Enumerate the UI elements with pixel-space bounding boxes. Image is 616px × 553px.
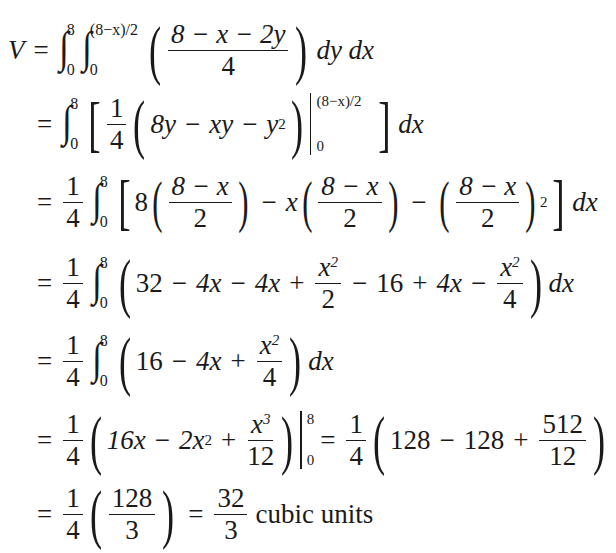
term: xy <box>209 109 233 140</box>
term-prefix: 8 <box>134 187 148 218</box>
integral-sign-icon: ∫ <box>59 26 69 70</box>
right-paren: ) <box>530 250 542 316</box>
right-bracket: ] <box>552 171 564 233</box>
equals-sign: = <box>34 35 49 66</box>
numerator: 512 <box>539 410 586 440</box>
left-paren: ( <box>440 174 450 230</box>
equation-line-4: = 1 4 ∫ 80 ( 32 − 4x − 4x + x22 − 16 + 4… <box>28 243 574 323</box>
numerator: 128 <box>109 484 156 514</box>
term: 16x <box>107 425 146 456</box>
equation-line-2: = ∫ 80 [ 1 4 ( 8y − xy − y2 ) (8−x)/20 ]… <box>28 84 424 164</box>
denominator: 4 <box>66 515 80 544</box>
eval-upper: 8 <box>307 411 315 428</box>
term: 2x <box>179 425 204 456</box>
integral-sign-icon: ∫ <box>92 337 102 381</box>
lower-limit: 0 <box>90 61 138 79</box>
denominator: 4 <box>66 284 80 313</box>
result-fraction: 323 <box>214 484 247 544</box>
operator: − <box>471 268 486 299</box>
denominator: 4 <box>221 51 235 80</box>
equation-line-6: = 1 4 ( 16x − 2x2 + x312 ) 80 = 1 4 ( 12… <box>28 400 610 480</box>
denominator: 4 <box>349 441 363 470</box>
denominator: 2 <box>193 203 207 232</box>
equation-line-5: = 1 4 ∫ 80 ( 16 − 4x + x24 ) dx <box>28 321 334 401</box>
operator: − <box>231 268 246 299</box>
exponent: 2 <box>540 194 548 211</box>
right-paren: ) <box>593 407 605 473</box>
denominator: 4 <box>66 441 80 470</box>
term: 16 <box>376 268 403 299</box>
exponent: 2 <box>278 116 286 133</box>
right-paren: ) <box>388 174 398 230</box>
right-paren: ) <box>295 17 307 83</box>
operator: − <box>172 346 187 377</box>
fraction: 51212 <box>539 410 586 470</box>
right-paren: ) <box>526 174 536 230</box>
numerator: 8 − x − 2y <box>168 20 288 50</box>
term: 8y <box>150 109 175 140</box>
equals-sign: = <box>37 268 52 299</box>
evaluation-bar: 80 <box>300 411 314 469</box>
numerator: 8 − x <box>318 172 381 202</box>
coefficient-fraction: 1 4 <box>63 410 83 470</box>
differentials: dy dx <box>316 35 374 66</box>
numerator: 1 <box>63 410 83 440</box>
right-paren: ) <box>291 91 303 157</box>
left-paren: ( <box>90 407 102 473</box>
operator: − <box>439 425 454 456</box>
numerator: 8 − x <box>456 172 519 202</box>
numerator: x <box>251 409 263 439</box>
integrand-fraction: 8 − x − 2y 4 <box>168 20 288 80</box>
right-paren: ) <box>162 481 174 547</box>
denominator: 4 <box>503 284 517 313</box>
differential: dx <box>308 346 333 377</box>
exponent: 2 <box>272 332 280 348</box>
term: 128 <box>464 425 505 456</box>
operator: − <box>242 109 257 140</box>
integral-sign-icon: ∫ <box>82 26 92 70</box>
numerator: x <box>260 330 272 360</box>
volume-variable: V <box>8 35 25 66</box>
numerator: 1 <box>63 253 83 283</box>
term: y <box>266 109 278 140</box>
left-paren: ( <box>133 91 145 157</box>
coefficient-fraction: 1 4 <box>63 484 83 544</box>
term: 16 <box>136 346 163 377</box>
fraction: 8 − x2 <box>169 172 232 232</box>
right-paren: ) <box>238 174 248 230</box>
fraction: 8 − x2 <box>456 172 519 232</box>
operator: − <box>261 187 276 218</box>
fraction: x24 <box>497 253 522 313</box>
coefficient-fraction: 1 4 <box>107 94 127 154</box>
numerator: 1 <box>63 172 83 202</box>
numerator: 1 <box>107 94 127 124</box>
equation-line-1: V = ∫ 80 ∫ (8−x)/20 ( 8 − x − 2y 4 ) dy … <box>8 10 374 90</box>
numerator: x <box>500 252 512 282</box>
denominator: 2 <box>343 203 357 232</box>
numerator: x <box>318 252 330 282</box>
operator: + <box>231 346 246 377</box>
left-paren: ( <box>152 174 162 230</box>
operator: − <box>411 187 426 218</box>
left-bracket: [ <box>118 171 130 233</box>
coefficient-fraction: 1 4 <box>63 253 83 313</box>
term: 4x <box>436 268 461 299</box>
denominator: 4 <box>110 125 124 154</box>
left-paren: ( <box>119 328 131 394</box>
exponent: 2 <box>512 254 520 270</box>
denominator: 4 <box>66 203 80 232</box>
term: 32 <box>136 268 163 299</box>
differential: dx <box>398 109 423 140</box>
operator: + <box>412 268 427 299</box>
equals-sign: = <box>37 499 52 530</box>
denominator: 3 <box>224 515 238 544</box>
equation-line-3: = 1 4 ∫ 80 [ 8 ( 8 − x2 ) − x ( 8 − x2 )… <box>28 162 598 242</box>
term: 4x <box>196 346 221 377</box>
term: 4x <box>196 268 221 299</box>
right-bracket: ] <box>378 93 390 155</box>
equals-sign: = <box>188 499 203 530</box>
operator: + <box>289 268 304 299</box>
equation-line-7: = 1 4 ( 1283 ) = 323 cubic units <box>28 474 373 553</box>
denominator: 12 <box>247 441 274 470</box>
equals-sign: = <box>37 425 52 456</box>
